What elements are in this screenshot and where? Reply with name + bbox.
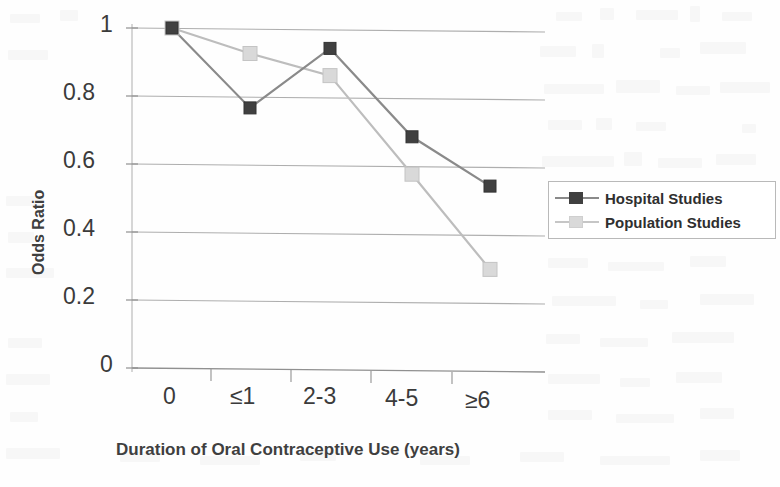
series-markers-population-studies [165, 21, 497, 276]
data-point-population-ge6 [483, 262, 497, 276]
x-axis-line [132, 368, 545, 372]
legend-label-hospital-studies: Hospital Studies [605, 190, 723, 207]
plot-area [0, 0, 780, 487]
chart-page: 1 0.8 0.6 0.4 0.2 0 0 ≤1 2-3 4-5 ≥6 Odds… [0, 0, 780, 487]
data-point-hospital-ge6 [484, 180, 496, 192]
legend-label-population-studies: Population Studies [605, 214, 741, 231]
data-point-population-4-5 [405, 167, 419, 181]
data-point-population-le1 [243, 47, 257, 61]
data-point-population-2-3 [323, 69, 337, 83]
data-point-hospital-le1 [244, 102, 256, 114]
chart-legend: Hospital Studies Population Studies [548, 181, 776, 239]
legend-item-population-studies[interactable]: Population Studies [555, 210, 769, 234]
legend-item-hospital-studies[interactable]: Hospital Studies [555, 186, 769, 210]
legend-swatch-hospital-studies [555, 191, 599, 205]
gridline-0_8 [132, 96, 545, 100]
legend-swatch-population-studies [555, 215, 599, 229]
gridline-0_4 [132, 232, 545, 236]
gridline-1_0 [132, 28, 545, 32]
gridline-0_6 [132, 164, 545, 168]
data-point-hospital-2-3 [324, 42, 336, 54]
line-chart: 1 0.8 0.6 0.4 0.2 0 0 ≤1 2-3 4-5 ≥6 Odds… [0, 0, 780, 487]
data-point-hospital-4-5 [406, 131, 418, 143]
gridline-0_2 [132, 300, 545, 304]
data-point-hospital-0 [166, 22, 178, 34]
